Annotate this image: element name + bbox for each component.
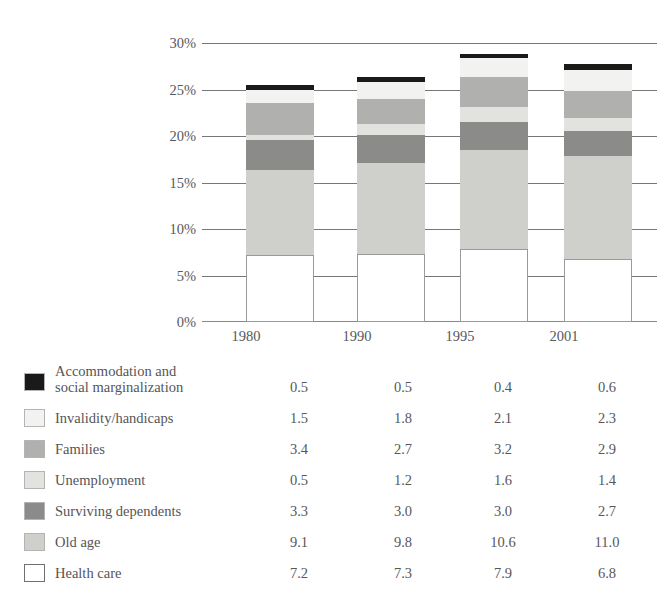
value-health-care-1980: 7.2 bbox=[268, 565, 330, 582]
value-health-care-1990: 7.3 bbox=[372, 565, 434, 582]
value-invalidity-2001: 2.3 bbox=[576, 410, 638, 427]
legend-label-accommodation-line1: Accommodation and bbox=[55, 363, 176, 379]
legend-row-unemployment: Unemployment 0.5 1.2 1.6 1.4 bbox=[0, 470, 659, 501]
value-invalidity-1995: 2.1 bbox=[472, 410, 534, 427]
value-accommodation-1995: 0.4 bbox=[472, 379, 534, 396]
value-families-1980: 3.4 bbox=[268, 441, 330, 458]
plot-area bbox=[202, 43, 657, 322]
legend-swatch-unemployment bbox=[24, 471, 45, 489]
legend-swatch-old-age bbox=[24, 533, 45, 551]
legend-row-old-age: Old age 9.1 9.8 10.6 11.0 bbox=[0, 532, 659, 563]
value-health-care-2001: 6.8 bbox=[576, 565, 638, 582]
bar-segment-surviving-dependents-2001 bbox=[564, 131, 632, 156]
bar-segment-health-care-1980 bbox=[246, 255, 314, 322]
bar-segment-old-age-1990 bbox=[357, 163, 425, 254]
value-old-age-2001: 11.0 bbox=[576, 534, 638, 551]
legend-row-accommodation: Accommodation and social marginalization… bbox=[0, 362, 659, 402]
legend-row-health-care: Health care 7.2 7.3 7.9 6.8 bbox=[0, 563, 659, 594]
value-old-age-1980: 9.1 bbox=[268, 534, 330, 551]
bar-segment-invalidity-handicaps-2001 bbox=[564, 70, 632, 91]
legend-label-old-age: Old age bbox=[55, 534, 240, 550]
x-label-2001: 2001 bbox=[519, 328, 609, 345]
gridline-30 bbox=[202, 43, 657, 44]
bar-segment-invalidity-handicaps-1995 bbox=[460, 58, 528, 78]
bar-1980 bbox=[246, 85, 314, 322]
bar-segment-health-care-1995 bbox=[460, 249, 528, 322]
legend-row-invalidity: Invalidity/handicaps 1.5 1.8 2.1 2.3 bbox=[0, 408, 659, 439]
legend-label-unemployment: Unemployment bbox=[55, 472, 240, 488]
value-unemployment-1980: 0.5 bbox=[268, 472, 330, 489]
bar-segment-unemployment-2001 bbox=[564, 118, 632, 131]
legend-swatch-surviving-dependents bbox=[24, 502, 45, 520]
bar-segment-unemployment-1990 bbox=[357, 124, 425, 135]
y-tick-20: 20% bbox=[152, 129, 196, 144]
value-families-1995: 3.2 bbox=[472, 441, 534, 458]
bar-segment-families-2001 bbox=[564, 91, 632, 118]
value-unemployment-1990: 1.2 bbox=[372, 472, 434, 489]
legend-row-families: Families 3.4 2.7 3.2 2.9 bbox=[0, 439, 659, 470]
legend-label-invalidity: Invalidity/handicaps bbox=[55, 410, 240, 426]
value-old-age-1990: 9.8 bbox=[372, 534, 434, 551]
bar-segment-families-1995 bbox=[460, 77, 528, 107]
bar-1995 bbox=[460, 54, 528, 322]
legend-label-accommodation-line2: social marginalization bbox=[55, 379, 183, 395]
y-tick-15: 15% bbox=[152, 176, 196, 191]
value-accommodation-1980: 0.5 bbox=[268, 379, 330, 396]
bar-segment-old-age-1980 bbox=[246, 170, 314, 255]
bar-segment-invalidity-handicaps-1990 bbox=[357, 82, 425, 99]
legend-row-surviving-dependents: Surviving dependents 3.3 3.0 3.0 2.7 bbox=[0, 501, 659, 532]
y-tick-5: 5% bbox=[152, 269, 196, 284]
value-invalidity-1980: 1.5 bbox=[268, 410, 330, 427]
bar-2001 bbox=[564, 64, 632, 322]
bar-segment-surviving-dependents-1990 bbox=[357, 135, 425, 163]
value-old-age-1995: 10.6 bbox=[472, 534, 534, 551]
bar-segment-invalidity-handicaps-1980 bbox=[246, 90, 314, 104]
bar-segment-families-1980 bbox=[246, 103, 314, 135]
bar-segment-surviving-dependents-1995 bbox=[460, 122, 528, 150]
bar-1990 bbox=[357, 77, 425, 322]
legend-swatch-accommodation bbox=[24, 373, 45, 391]
value-surviving-dependents-1990: 3.0 bbox=[372, 503, 434, 520]
y-tick-30: 30% bbox=[152, 36, 196, 51]
value-unemployment-1995: 1.6 bbox=[472, 472, 534, 489]
legend-label-surviving-dependents: Surviving dependents bbox=[55, 503, 240, 519]
value-invalidity-1990: 1.8 bbox=[372, 410, 434, 427]
y-tick-25: 25% bbox=[152, 83, 196, 98]
bar-segment-families-1990 bbox=[357, 99, 425, 124]
value-surviving-dependents-1995: 3.0 bbox=[472, 503, 534, 520]
legend-swatch-families bbox=[24, 440, 45, 458]
legend-swatch-invalidity bbox=[24, 409, 45, 427]
bar-segment-surviving-dependents-1980 bbox=[246, 140, 314, 171]
value-families-2001: 2.9 bbox=[576, 441, 638, 458]
bar-segment-unemployment-1995 bbox=[460, 107, 528, 122]
value-accommodation-2001: 0.6 bbox=[576, 379, 638, 396]
bar-segment-old-age-1995 bbox=[460, 150, 528, 249]
legend-label-families: Families bbox=[55, 441, 240, 457]
chart-container: 30% 25% 20% 15% 10% 5% 0% 1980 1990 1995… bbox=[0, 0, 659, 352]
x-label-1980: 1980 bbox=[201, 328, 291, 345]
legend-label-health-care: Health care bbox=[55, 565, 240, 581]
bar-segment-health-care-2001 bbox=[564, 259, 632, 322]
y-axis-tick-labels: 30% 25% 20% 15% 10% 5% 0% bbox=[152, 43, 196, 322]
y-tick-10: 10% bbox=[152, 222, 196, 237]
legend-label-accommodation: Accommodation and social marginalization bbox=[55, 363, 240, 395]
legend-swatch-health-care bbox=[24, 564, 45, 582]
value-accommodation-1990: 0.5 bbox=[372, 379, 434, 396]
legend-table: Accommodation and social marginalization… bbox=[0, 358, 659, 610]
bar-segment-old-age-2001 bbox=[564, 156, 632, 258]
x-label-1995: 1995 bbox=[415, 328, 505, 345]
value-unemployment-2001: 1.4 bbox=[576, 472, 638, 489]
bar-segment-health-care-1990 bbox=[357, 254, 425, 322]
value-surviving-dependents-2001: 2.7 bbox=[576, 503, 638, 520]
y-tick-0: 0% bbox=[152, 315, 196, 330]
value-families-1990: 2.7 bbox=[372, 441, 434, 458]
x-label-1990: 1990 bbox=[312, 328, 402, 345]
value-health-care-1995: 7.9 bbox=[472, 565, 534, 582]
value-surviving-dependents-1980: 3.3 bbox=[268, 503, 330, 520]
